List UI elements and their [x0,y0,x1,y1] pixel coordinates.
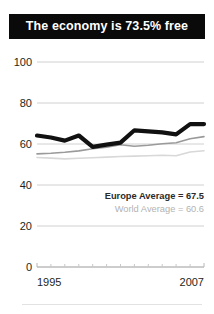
y-tick-0: 0 [26,261,32,273]
economic-freedom-chart-card: The economy is 73.5% free [0,0,214,314]
plot-area: 100 80 60 40 20 0 1995 2007 Europe Avera… [0,48,214,288]
legend-world-average: World Average = 60.6 [115,204,204,214]
y-tick-60: 60 [20,138,32,150]
bottom-divider [22,304,202,305]
x-tick-end: 2007 [180,276,204,288]
series-country-line [37,124,204,147]
legend-europe-average: Europe Average = 67.5 [105,191,204,201]
y-tick-80: 80 [20,97,32,109]
x-axis [37,263,204,267]
line-chart-svg: 100 80 60 40 20 0 1995 2007 Europe Avera… [0,48,214,288]
chart-title-banner: The economy is 73.5% free [9,14,205,39]
y-tick-40: 40 [20,179,32,191]
page-title: The economy is 73.5% free [26,20,188,33]
x-tick-start: 1995 [37,276,61,288]
y-tick-20: 20 [20,220,32,232]
y-tick-100: 100 [14,56,32,68]
chart-legend: Europe Average = 67.5 World Average = 60… [105,191,204,214]
